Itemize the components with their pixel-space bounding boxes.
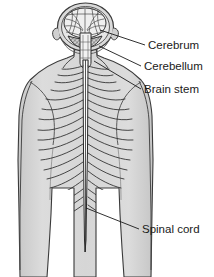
label-cerebrum: Cerebrum [148, 39, 199, 51]
cns-diagram-canvas: Cerebrum Cerebellum Brain stem Spinal co… [0, 0, 214, 277]
label-cerebellum: Cerebellum [144, 60, 203, 72]
cns-diagram: Cerebrum Cerebellum Brain stem Spinal co… [0, 0, 214, 277]
label-brain-stem: Brain stem [144, 83, 199, 95]
label-spinal-cord: Spinal cord [142, 223, 200, 235]
